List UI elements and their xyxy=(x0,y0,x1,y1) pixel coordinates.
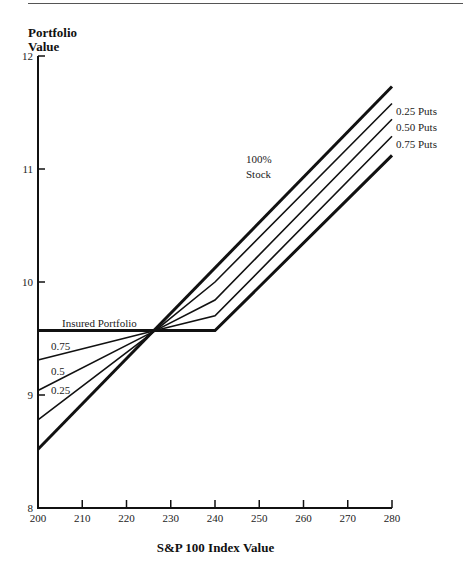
annotation-label: 100% xyxy=(246,153,272,165)
series-label-left: 0.75 xyxy=(51,340,71,352)
series-0-50-puts xyxy=(38,119,392,390)
series-label-right: 0.25 Puts xyxy=(396,105,437,117)
x-axis-label: S&P 100 Index Value xyxy=(0,540,463,556)
x-tick-label: 210 xyxy=(74,512,91,524)
series-label-right: 0.50 Puts xyxy=(396,121,437,133)
x-tick-label: 270 xyxy=(340,512,357,524)
x-tick-label: 220 xyxy=(118,512,135,524)
x-tick-label: 260 xyxy=(295,512,312,524)
x-tick-label: 230 xyxy=(163,512,180,524)
series-100-stock xyxy=(38,87,392,450)
series-label-left: 0.25 xyxy=(51,384,71,396)
series-insured-portfolio xyxy=(38,155,392,330)
y-tick-label: 10 xyxy=(22,276,34,288)
x-tick-label: 200 xyxy=(30,512,47,524)
x-tick-label: 240 xyxy=(207,512,224,524)
y-tick-label: 11 xyxy=(22,163,33,175)
x-axis-label-text: S&P 100 Index Value xyxy=(157,540,274,555)
y-tick-label: 9 xyxy=(28,389,34,401)
series-label-left: 0.5 xyxy=(51,365,65,377)
y-tick-label: 12 xyxy=(22,50,33,62)
series-0-25-puts xyxy=(38,103,392,419)
annotation-label: Stock xyxy=(246,168,272,180)
series-label-right: 0.75 Puts xyxy=(396,138,437,150)
series-label-left: Insured Portfolio xyxy=(62,317,137,329)
chart-plot: 891011122002102202302402502602702800.25 … xyxy=(0,0,463,563)
x-tick-label: 250 xyxy=(251,512,268,524)
x-tick-label: 280 xyxy=(384,512,401,524)
